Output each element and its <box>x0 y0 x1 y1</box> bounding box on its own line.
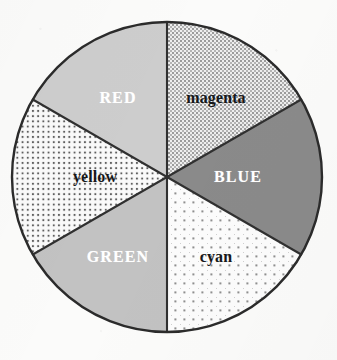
color-wheel-svg <box>0 0 337 360</box>
figure-canvas: magenta BLUE cyan GREEN yellow RED <box>0 0 337 360</box>
